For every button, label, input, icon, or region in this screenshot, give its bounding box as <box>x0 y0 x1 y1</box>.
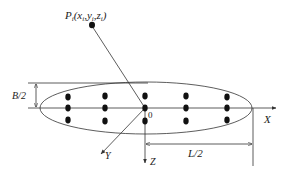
x-axis-label: X <box>264 114 271 125</box>
source-dot <box>142 93 147 100</box>
source-dot <box>142 118 147 125</box>
y-axis-label: Y <box>105 151 111 161</box>
source-dot <box>102 105 107 112</box>
source-dot <box>183 118 188 125</box>
p-to-origin-line <box>92 26 145 108</box>
source-dot <box>142 105 147 112</box>
z-axis-label: Z <box>150 157 156 167</box>
point-p-label: Pi(xi,yi,zi) <box>65 10 106 23</box>
ellipse-source-diagram <box>0 0 287 179</box>
source-dot <box>102 118 107 125</box>
origin-label: 0 <box>148 111 153 120</box>
b-half-label: B/2 <box>12 91 26 101</box>
source-dot <box>224 105 229 112</box>
source-dot <box>65 94 70 101</box>
source-dot <box>183 105 188 112</box>
source-dot <box>183 93 188 100</box>
y-axis <box>101 108 145 154</box>
source-dot <box>65 117 70 124</box>
source-dot <box>224 94 229 101</box>
l-half-label: L/2 <box>188 148 203 159</box>
source-dot <box>65 105 70 112</box>
source-dot <box>224 117 229 124</box>
source-dot <box>102 93 107 100</box>
